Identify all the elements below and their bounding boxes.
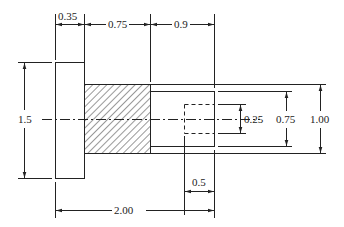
dim-hatched-length: 0.75 [108,18,128,30]
shaft-drawing: 0.35 0.75 0.9 1.5 0.25 0.75 1.00 0.5 2.0… [0,0,344,227]
dim-hole-diameter: 0.25 [244,113,264,125]
dim-right-length: 0.9 [174,18,188,30]
dim-flange-length: 0.35 [58,10,78,22]
flange [56,63,85,179]
dim-overall-length: 2.00 [114,204,134,216]
dim-flange-diameter: 1.5 [18,113,32,125]
dim-right-diameter: 0.75 [276,113,296,125]
dim-hole-depth: 0.5 [192,176,206,188]
dim-hatched-diameter: 1.00 [310,113,330,125]
